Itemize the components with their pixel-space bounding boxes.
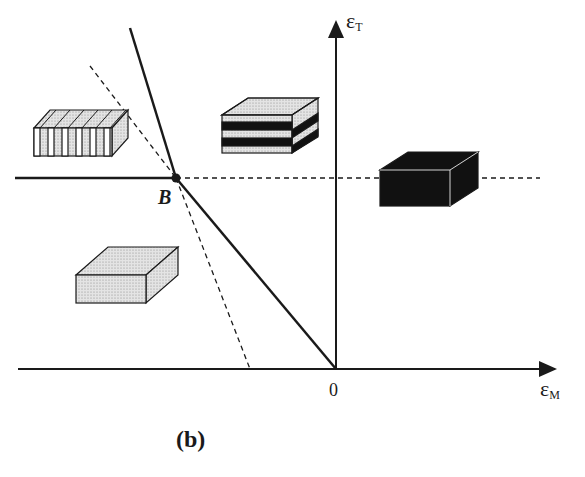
figure-caption: (b)	[176, 426, 205, 453]
x-axis-label: εM	[540, 376, 560, 403]
point-b-marker	[172, 174, 181, 183]
dotted-grey-block	[76, 247, 178, 303]
y-axis-label: εT	[346, 8, 363, 35]
x-axis-label-main: ε	[540, 376, 549, 401]
x-axis-label-sub: M	[549, 388, 560, 402]
point-b-label: B	[158, 186, 171, 209]
origin-label: 0	[329, 380, 338, 401]
y-axis-label-main: ε	[346, 8, 355, 33]
phase-diagram	[0, 0, 585, 477]
vertical-stripes-block	[34, 110, 128, 156]
boundary-lines	[15, 28, 336, 369]
y-axis-label-sub: T	[355, 20, 362, 34]
solid-black-block	[380, 152, 478, 206]
horizontal-stripes-block	[222, 98, 318, 153]
